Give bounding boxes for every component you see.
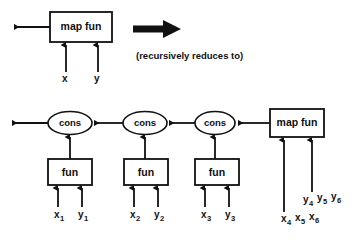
top-input-label-y: y xyxy=(94,74,100,84)
map-input-label-x6: x6 xyxy=(309,212,319,222)
cons-label-2: cons xyxy=(123,118,167,128)
fun-label-2: fun xyxy=(124,167,168,178)
map-input-label-y6: y6 xyxy=(331,192,341,202)
map-input-label-y5: y5 xyxy=(317,193,327,203)
fun-input-label-y2: y2 xyxy=(154,210,164,220)
map-input-label-x5: x5 xyxy=(295,213,305,223)
top-map-fun-label: map fun xyxy=(50,21,112,32)
fun-label-1: fun xyxy=(48,167,92,178)
diagram-canvas: map fun x y (recursively reduces to) con… xyxy=(0,0,356,240)
map-input-label-x4: x4 xyxy=(281,214,291,224)
bottom-map-fun-label: map fun xyxy=(270,117,324,128)
fun-label-3: fun xyxy=(195,167,239,178)
top-input-label-x: x xyxy=(62,74,68,84)
fun-input-label-x2: x2 xyxy=(130,210,140,220)
fun-input-label-y3: y3 xyxy=(225,210,235,220)
reduction-caption: (recursively reduces to) xyxy=(136,51,243,61)
fun-input-label-x1: x1 xyxy=(54,210,64,220)
cons-label-1: cons xyxy=(48,118,92,128)
fun-input-label-x3: x3 xyxy=(201,210,211,220)
bold-right-arrow xyxy=(133,20,181,38)
map-input-label-y4: y4 xyxy=(303,195,313,205)
cons-label-3: cons xyxy=(195,118,235,128)
fun-input-label-y1: y1 xyxy=(78,210,88,220)
